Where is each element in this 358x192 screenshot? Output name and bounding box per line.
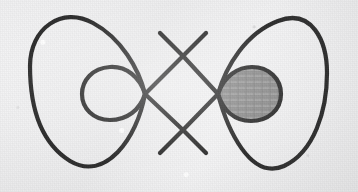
- inner-left-loop: [82, 67, 145, 120]
- lower-crossing-se-tail: [183, 130, 206, 153]
- outer-left-lobe: [30, 17, 145, 166]
- lower-crossing-sw-tail: [160, 130, 183, 153]
- figure-eight-drawing: [0, 0, 358, 192]
- upper-crossing-ne-tail: [183, 33, 206, 56]
- upper-diagonal-chevron: [145, 56, 218, 94]
- lower-diagonal-chevron: [145, 94, 218, 130]
- figure-canvas: [0, 0, 358, 192]
- curve-strokes: [30, 17, 327, 168]
- upper-crossing-nw-tail: [160, 33, 183, 56]
